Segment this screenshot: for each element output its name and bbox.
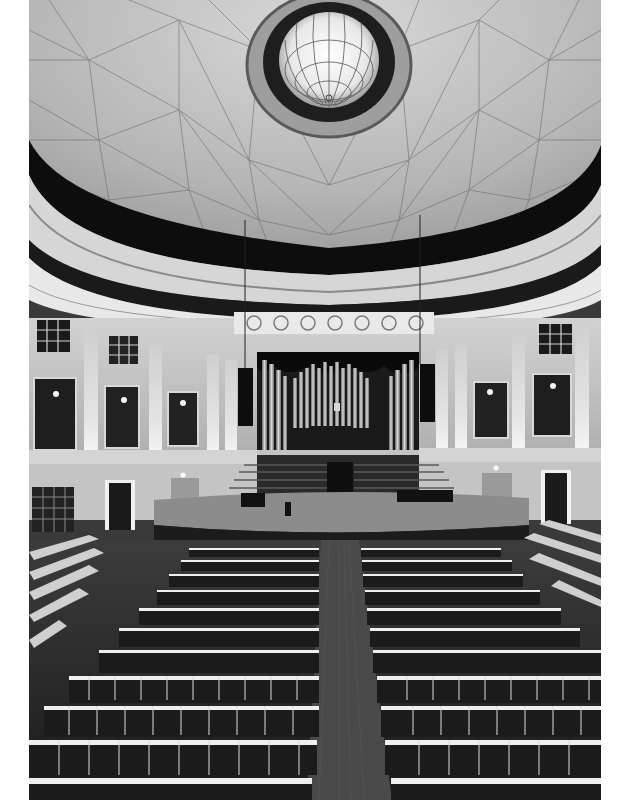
oculus-skylight	[247, 0, 411, 137]
right-speaker	[420, 364, 435, 422]
concert-hall-illustration	[29, 0, 601, 800]
concert-hall-photo	[29, 0, 601, 800]
pipe-organ	[257, 352, 419, 462]
left-speaker	[238, 368, 253, 426]
